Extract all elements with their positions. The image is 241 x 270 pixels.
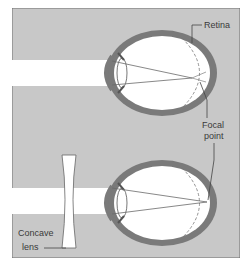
- concave-label-line2: lens: [22, 242, 39, 252]
- myopia-diagram: Retina Focal point C: [12, 8, 240, 258]
- focal-label-line2: point: [204, 131, 224, 141]
- light-beam-top: [12, 60, 112, 86]
- retina-label: Retina: [204, 20, 230, 30]
- light-beam-bottom: [12, 188, 112, 214]
- eyeball-interior-bottom: [114, 166, 210, 240]
- diagram-frame: Retina Focal point C: [12, 8, 240, 258]
- focal-label-line1: Focal: [202, 120, 224, 130]
- eyeball-interior-top: [114, 36, 210, 110]
- concave-label-line1: Concave: [18, 228, 54, 238]
